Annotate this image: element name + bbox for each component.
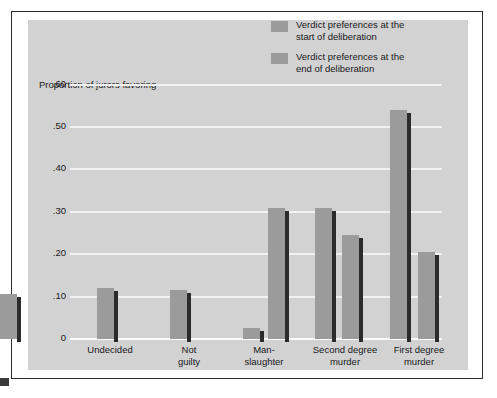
- y-axis-title: Proportion of jurors favoring: [39, 79, 156, 90]
- legend-swatch-end-icon: [271, 53, 288, 64]
- legend-label-start: Verdict preferences at the start of deli…: [296, 19, 404, 42]
- legend-item-start: Verdict preferences at the start of deli…: [271, 19, 441, 42]
- legend-item-end: Verdict preferences at the end of delibe…: [271, 51, 441, 74]
- chart-legend: Verdict preferences at the start of deli…: [271, 19, 441, 83]
- legend-label-end: Verdict preferences at the end of delibe…: [296, 51, 404, 74]
- scan-artifact-mark: [0, 378, 9, 386]
- legend-swatch-start-icon: [271, 21, 288, 32]
